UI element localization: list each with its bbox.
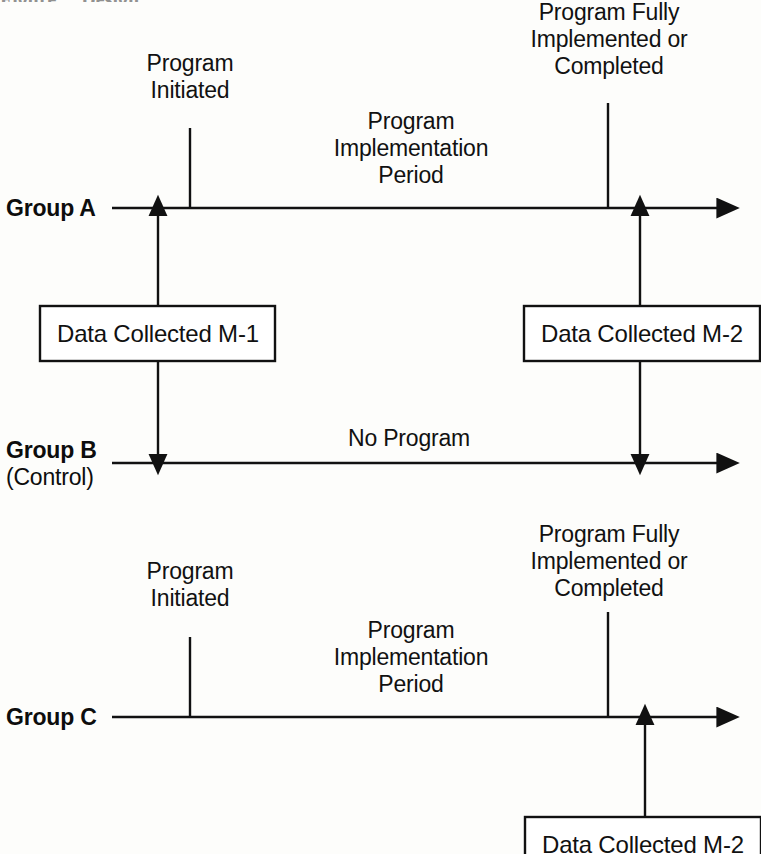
group-c-completed-line2: Implemented or [531,548,688,575]
group-b-no-program-label: No Program [348,425,470,452]
group-c-completed-line3: Completed [554,575,663,602]
group-c-period-line1: Program [368,617,455,644]
group-a-completed-line3: Completed [554,53,663,80]
group-c-completed-line1: Program Fully [539,521,680,548]
data-collected-m2-c-label: Data Collected M-2 [542,831,744,854]
group-a-program-initiated-line2: Initiated [151,77,230,104]
group-a-period-line2: Implementation [334,135,488,162]
group-c-program-initiated-line2: Initiated [151,585,230,612]
group-a-completed-line1: Program Fully [539,0,680,26]
group-c-label: Group C [6,704,97,731]
group-c-period-line3: Period [378,671,443,698]
group-b-label-main: Group B [6,437,97,463]
data-collected-m1-label: Data Collected M-1 [57,320,259,348]
group-b-sublabel: (Control) [6,464,97,491]
group-c-period-line2: Implementation [334,644,488,671]
group-b-label: Group B(Control) [6,437,97,491]
figure-canvas: Figure ... Design [0,0,761,854]
group-a-period-line3: Period [378,162,443,189]
group-a-label: Group A [6,195,96,222]
group-c-program-initiated-line1: Program [147,558,234,585]
group-a-program-initiated-line1: Program [147,50,234,77]
group-a-completed-line2: Implemented or [531,26,688,53]
data-collected-m2-label: Data Collected M-2 [541,320,743,348]
group-a-period-line1: Program [368,108,455,135]
